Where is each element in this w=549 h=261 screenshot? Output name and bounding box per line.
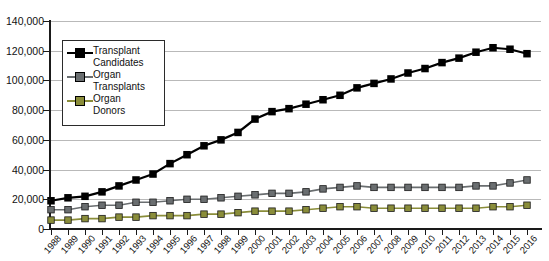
data-point-marker <box>218 211 225 218</box>
data-point-marker <box>354 203 361 210</box>
data-point-marker <box>439 205 446 212</box>
data-point-marker <box>473 205 480 212</box>
legend-label-line2: Candidates <box>93 57 144 68</box>
data-point-marker <box>149 170 157 178</box>
y-axis-tick <box>43 229 50 230</box>
data-point-marker <box>268 108 276 116</box>
data-point-marker <box>286 190 293 197</box>
data-point-marker <box>456 184 463 191</box>
data-point-marker <box>183 151 191 159</box>
data-point-marker <box>285 105 293 113</box>
data-point-marker <box>421 65 429 73</box>
y-axis-tick <box>43 199 50 200</box>
data-point-marker <box>115 182 123 190</box>
legend-label-organ-transplants: Organ Transplants <box>93 69 145 92</box>
data-point-marker <box>523 50 531 58</box>
data-point-marker <box>455 54 463 62</box>
data-point-marker <box>524 202 531 209</box>
data-point-marker <box>438 59 446 67</box>
legend-label-line2: Donors <box>93 105 125 116</box>
legend-label-line1: Organ <box>93 69 121 80</box>
data-point-marker <box>150 199 157 206</box>
legend-label-line1: Transplant <box>93 45 140 56</box>
data-point-marker <box>439 184 446 191</box>
data-point-marker <box>490 203 497 210</box>
chart-legend: Transplant Candidates Organ Transplants … <box>62 40 165 126</box>
data-point-marker <box>65 206 72 213</box>
legend-label-transplant-candidates: Transplant Candidates <box>93 45 144 68</box>
data-point-marker <box>506 45 514 53</box>
y-axis-tick <box>43 110 50 111</box>
data-point-marker <box>353 84 361 92</box>
data-point-marker <box>116 214 123 221</box>
data-point-marker <box>269 190 276 197</box>
data-point-marker <box>47 197 55 205</box>
data-point-marker <box>422 205 429 212</box>
data-point-marker <box>252 208 259 215</box>
data-point-marker <box>167 198 174 205</box>
data-point-marker <box>81 193 89 201</box>
data-point-marker <box>388 184 395 191</box>
data-point-marker <box>286 208 293 215</box>
y-axis-tick <box>43 140 50 141</box>
data-point-marker <box>235 193 242 200</box>
data-point-marker <box>116 202 123 209</box>
data-point-marker <box>337 184 344 191</box>
data-point-marker <box>405 184 412 191</box>
data-point-marker <box>507 203 514 210</box>
data-point-marker <box>490 183 497 190</box>
data-point-marker <box>99 202 106 209</box>
data-point-marker <box>422 184 429 191</box>
data-point-marker <box>184 196 191 203</box>
data-point-marker <box>65 217 72 224</box>
data-point-marker <box>150 212 157 219</box>
data-point-marker <box>336 92 344 100</box>
data-point-marker <box>200 142 208 150</box>
data-point-marker <box>303 189 310 196</box>
data-point-marker <box>98 188 106 196</box>
legend-marker-organ-donors <box>67 94 93 107</box>
data-point-marker <box>82 203 89 210</box>
data-point-marker <box>320 186 327 193</box>
data-point-marker <box>48 217 55 224</box>
y-axis-tick <box>43 21 50 22</box>
data-point-marker <box>524 177 531 184</box>
legend-marker-organ-transplants <box>67 70 93 83</box>
data-point-marker <box>64 194 72 202</box>
data-point-marker <box>82 215 89 222</box>
data-point-marker <box>354 183 361 190</box>
y-axis-tick <box>43 170 50 171</box>
data-point-marker <box>507 180 514 187</box>
data-point-marker <box>388 205 395 212</box>
y-axis-tick <box>43 80 50 81</box>
data-point-marker <box>48 206 55 213</box>
data-point-marker <box>405 205 412 212</box>
data-point-marker <box>234 129 242 137</box>
legend-item-transplant-candidates: Transplant Candidates <box>67 45 160 68</box>
data-point-marker <box>404 69 412 77</box>
legend-label-organ-donors: Organ Donors <box>93 93 125 116</box>
data-point-marker <box>218 195 225 202</box>
data-point-marker <box>472 48 480 56</box>
data-point-marker <box>337 203 344 210</box>
y-axis-tick <box>43 51 50 52</box>
data-point-marker <box>167 212 174 219</box>
data-point-marker <box>184 212 191 219</box>
data-point-marker <box>269 208 276 215</box>
data-point-marker <box>235 209 242 216</box>
data-point-marker <box>370 80 378 88</box>
legend-marker-transplant-candidates <box>67 46 93 59</box>
legend-label-line1: Organ <box>93 93 121 104</box>
data-point-marker <box>302 100 310 108</box>
data-point-marker <box>201 211 208 218</box>
data-point-marker <box>303 206 310 213</box>
data-point-marker <box>489 44 497 52</box>
data-point-marker <box>371 205 378 212</box>
legend-item-organ-transplants: Organ Transplants <box>67 69 160 92</box>
chart-container: 020,00040,00060,00080,000100,000120,0001… <box>0 0 549 261</box>
data-point-marker <box>99 215 106 222</box>
legend-item-organ-donors: Organ Donors <box>67 93 160 116</box>
data-point-marker <box>320 205 327 212</box>
data-point-marker <box>473 183 480 190</box>
data-point-marker <box>387 75 395 83</box>
